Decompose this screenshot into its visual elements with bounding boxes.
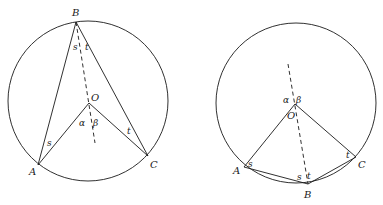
label-alpha: α bbox=[79, 118, 85, 128]
dashed-diameter bbox=[288, 64, 308, 184]
figure-right: B O A C α β s t s t bbox=[216, 23, 376, 200]
label-s-top: s bbox=[73, 42, 78, 52]
segment-OA bbox=[38, 103, 89, 165]
label-t-C: t bbox=[346, 150, 350, 160]
label-s-bottom: s bbox=[297, 172, 302, 182]
segment-BC bbox=[308, 157, 356, 184]
label-B: B bbox=[71, 7, 79, 18]
label-s-bottom: s bbox=[47, 138, 52, 148]
label-t-bottom: t bbox=[307, 171, 311, 181]
label-alpha: α bbox=[283, 95, 289, 105]
label-A: A bbox=[28, 166, 36, 177]
label-C: C bbox=[150, 159, 158, 170]
inscribed-angle-diagram: B O A C s t α β s t B O A C α β s t s t bbox=[0, 0, 383, 205]
segment-OC bbox=[89, 103, 148, 156]
label-t-bottom: t bbox=[127, 126, 131, 136]
label-B: B bbox=[303, 189, 311, 200]
label-beta: β bbox=[295, 95, 301, 105]
label-A: A bbox=[232, 165, 240, 176]
label-O: O bbox=[91, 92, 99, 103]
label-C: C bbox=[358, 159, 366, 170]
figure-left: B O A C s t α β s t bbox=[8, 7, 168, 181]
label-s-A: s bbox=[248, 159, 253, 169]
label-t-top: t bbox=[85, 42, 89, 52]
label-beta: β bbox=[92, 118, 98, 128]
label-O: O bbox=[287, 110, 295, 121]
segment-BA bbox=[38, 22, 76, 165]
